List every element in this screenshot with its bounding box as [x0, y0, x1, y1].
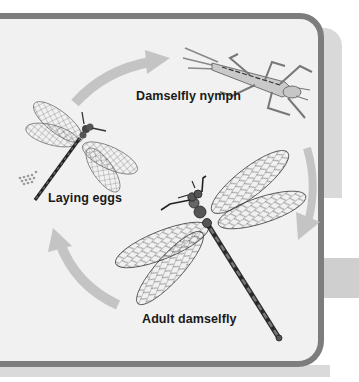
- label-adult-damselfly: Adult damselfly: [142, 312, 237, 326]
- label-damselfly-nymph: Damselfly nymph: [136, 89, 241, 103]
- life-cycle-diagram: Damselfly nymph Laying eggs Adult damsel…: [0, 0, 359, 382]
- arrow-adult-to-eggs: [48, 228, 118, 305]
- label-laying-eggs: Laying eggs: [48, 191, 122, 205]
- nymph-illustration: [183, 48, 312, 118]
- eggs-cluster: [19, 171, 38, 186]
- egg-laying-damselfly-illustration: [23, 95, 142, 200]
